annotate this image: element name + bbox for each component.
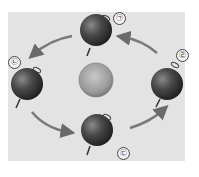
arrow-left-to-bottom [32,112,68,132]
earth-left-icon [11,66,43,108]
label-bottom: ㉢ [117,147,130,160]
arrow-right-to-top [123,37,157,53]
label-top: ㉠ [113,12,126,25]
label-left: ㉡ [8,56,21,69]
earth-right-icon [151,61,183,107]
orbit-diagram [0,0,199,177]
earth-bottom-icon [81,113,113,155]
label-right: ㉣ [176,49,189,62]
arrow-top-to-left [34,36,72,54]
sun-icon [79,63,113,97]
earth-top-icon [80,14,112,56]
arrow-bottom-to-right [130,110,163,128]
